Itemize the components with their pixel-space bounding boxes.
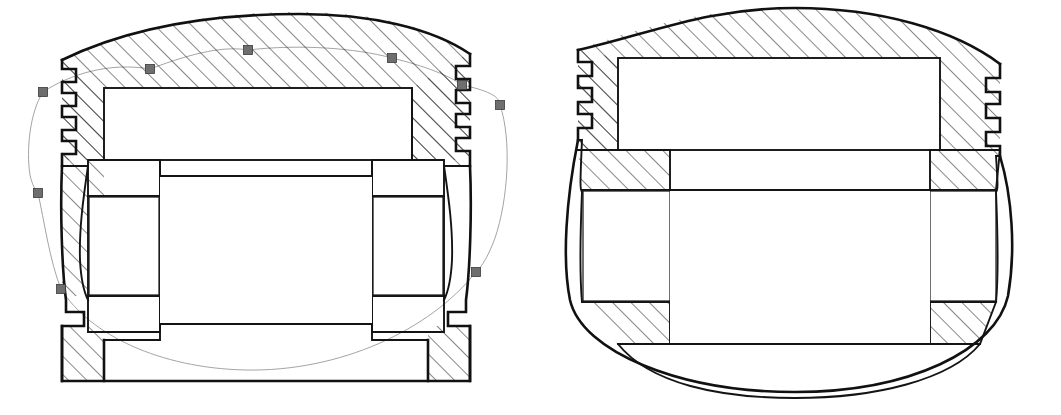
handle-skirt-left-mid[interactable] (34, 189, 43, 198)
bottom-skirt-flat (104, 340, 428, 381)
drawing-canvas (0, 0, 1061, 415)
handle-crown-top[interactable] (244, 46, 253, 55)
left-wall-hatch-right (578, 50, 618, 150)
crown-cavity-fill (104, 88, 412, 160)
right-boss-upper-block (372, 160, 444, 196)
piston-view-right[interactable] (530, 0, 1061, 415)
right-boss-upper-block-right (930, 150, 1000, 190)
handle-crown-upper-right[interactable] (388, 54, 397, 63)
right-pin-boss-face-right (930, 191, 996, 301)
left-view-svg (0, 0, 530, 415)
right-pin-boss-face (373, 197, 443, 295)
right-view-svg (530, 0, 1061, 415)
lower-right-hatch (428, 326, 470, 381)
left-pin-boss-face (89, 197, 159, 295)
handle-skirt-right-upper[interactable] (496, 101, 505, 110)
right-boss-lower-block-right (930, 302, 996, 344)
right-skirt-waist (444, 166, 470, 300)
left-boss-upper-block-right (578, 150, 670, 190)
right-skirt-inner-waist-right (996, 156, 1000, 302)
handle-crown-right[interactable] (458, 81, 467, 90)
handle-crown-upper-left[interactable] (146, 65, 155, 74)
piston-view-left[interactable] (0, 0, 530, 415)
handle-skirt-right-lower[interactable] (472, 268, 481, 277)
lower-left-hatch (62, 326, 104, 381)
handle-crown-left[interactable] (39, 88, 48, 97)
left-pin-boss-face-right (583, 191, 670, 301)
handle-skirt-left-lower[interactable] (57, 285, 66, 294)
pin-bore-cavity-right (670, 190, 930, 345)
crown-cavity-fill-right (618, 58, 940, 150)
pin-bore-cavity (160, 176, 372, 324)
